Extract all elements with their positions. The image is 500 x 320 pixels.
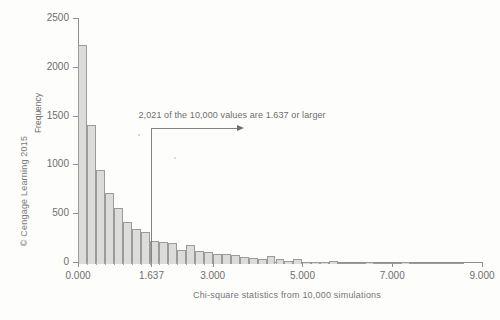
histogram-bar [105,193,114,264]
histogram-bar [87,125,96,264]
y-axis-tick: 500 [73,213,78,214]
histogram-bar [401,262,410,264]
x-axis-minor-tick [159,262,160,265]
x-axis-tick-label: 9.000 [469,270,494,281]
y-axis-tick-label: 2500 [47,11,69,24]
histogram-bar [446,263,455,264]
x-axis-minor-tick [177,262,178,265]
histogram-bar [392,263,401,264]
histogram-bar [123,222,132,264]
histogram-bar [365,262,374,264]
x-axis-tick [78,262,79,267]
histogram-bar [204,252,213,264]
histogram-bar [114,208,123,264]
histogram-bar [437,263,446,264]
histogram-bar [258,259,267,264]
y-axis-title: Frequency [33,78,43,148]
x-axis-tick-label: 1.637 [139,270,164,281]
x-axis-minor-tick [141,262,142,265]
x-axis-minor-tick [204,262,205,265]
figure-container: © Cengage Learning 2015 Frequency 050010… [0,0,500,320]
histogram-bar [240,257,249,264]
y-axis-tick-label: 0 [63,255,69,268]
histogram-bar [293,259,302,264]
y-axis-tick: 2000 [73,67,78,68]
histogram-bar [141,232,150,264]
histogram-bar [177,250,186,264]
y-axis-tick: 1000 [73,164,78,165]
x-axis-tick [392,262,393,267]
x-axis-tick [482,262,483,267]
histogram-bar [383,263,392,264]
x-axis-minor-tick [186,262,187,265]
x-axis-tick [213,262,214,267]
histogram-bar [213,254,222,264]
y-axis-tick: 2500 [73,18,78,19]
x-axis-tick [151,262,152,267]
x-axis-minor-tick [87,262,88,265]
x-axis-minor-tick [168,262,169,265]
copyright-notice: © Cengage Learning 2015 [19,121,29,261]
x-axis-minor-tick [195,262,196,265]
y-axis-tick: 1500 [73,116,78,117]
scan-speck [174,157,176,159]
y-axis-tick-label: 2000 [47,60,69,73]
x-axis-tick-label: 3.000 [200,270,225,281]
threshold-marker-line [151,146,152,262]
histogram-bar [302,262,311,264]
histogram-bar [168,243,177,264]
histogram-bar [410,263,419,264]
histogram-bar [267,256,276,264]
annotation-label: 2,021 of the 10,000 values are 1.637 or … [138,110,325,120]
histogram-bar [329,261,338,264]
scan-speck [138,134,140,136]
annotation-arrow-shaft [151,128,239,129]
y-axis-tick-label: 500 [52,206,69,219]
histogram-bar [249,258,258,264]
x-axis-tick-label: 0.000 [65,270,90,281]
y-axis-tick-label: 1000 [47,157,69,170]
histogram-bar [338,263,347,264]
histogram-bar [186,245,195,264]
histogram-bar [78,45,87,264]
histogram-bar [374,263,383,264]
histogram-bar [419,263,428,264]
x-axis-tick-label: 5.000 [290,270,315,281]
x-axis-minor-tick [132,262,133,265]
histogram-bar [159,242,168,264]
histogram-bar [276,259,285,264]
x-axis-title: Chi-square statistics from 10,000 simula… [0,290,500,300]
histogram-bar [320,262,329,264]
y-axis-tick-label: 1500 [47,109,69,122]
histogram-bar [195,251,204,264]
histogram-bar [455,263,464,264]
x-axis-minor-tick [114,262,115,265]
histogram-bar [96,170,105,264]
histogram-bar [231,255,240,264]
x-axis-tick-label: 7.000 [380,270,405,281]
histogram-bar [356,263,365,264]
x-axis-tick [302,262,303,267]
x-axis-minor-tick [96,262,97,265]
plot-area: 05001000150020002500 0.0001.6373.0005.00… [78,18,482,264]
histogram-bar [284,261,293,264]
x-axis-minor-tick [105,262,106,265]
annotation-arrow-head [237,125,244,131]
histogram-bar [347,263,356,264]
histogram-bar [428,263,437,264]
histogram-bar [222,254,231,264]
x-axis-minor-tick [123,262,124,265]
histogram-bar [132,229,141,264]
annotation-arrow-stem [151,128,152,146]
histogram-bar [311,262,320,264]
